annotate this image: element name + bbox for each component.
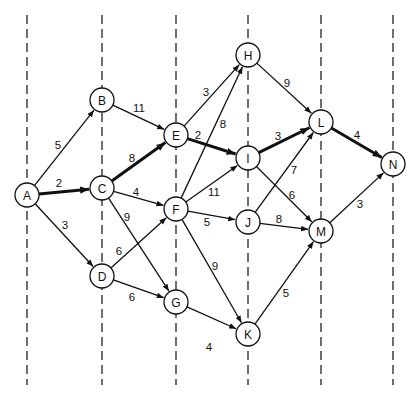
edge-a-c-critical — [39, 189, 89, 194]
edge-weight-label: 6 — [116, 245, 122, 257]
node-label: D — [98, 270, 107, 284]
edge-weight-label: 3 — [203, 86, 209, 98]
edge-c-e-critical — [112, 143, 166, 181]
node-j: J — [236, 210, 260, 234]
edge-weight-label: 5 — [283, 287, 289, 299]
edge-weight-label: 8 — [220, 118, 226, 130]
node-m: M — [309, 219, 333, 243]
edge-i-m — [256, 166, 311, 221]
edge-j-m — [260, 223, 308, 229]
edge-d-f — [111, 218, 166, 268]
edge-weight-label: 3 — [275, 130, 281, 142]
edge-a-d — [35, 204, 93, 267]
node-label: I — [246, 152, 249, 166]
node-label: B — [98, 94, 106, 108]
node-k: K — [236, 322, 260, 346]
stage-lines — [27, 15, 393, 385]
node-label: A — [23, 189, 31, 203]
edge-a-b — [34, 110, 94, 185]
node-label: F — [172, 203, 179, 217]
edge-weight-label: 4 — [133, 186, 140, 198]
edge-weight-label: 4 — [354, 129, 361, 141]
edge-weight-label: 5 — [55, 139, 61, 151]
edge-weight-label: 5 — [204, 216, 210, 228]
node-label: E — [172, 129, 180, 143]
edge-weight-label: 11 — [133, 102, 145, 114]
edge-weight-label: 2 — [56, 177, 62, 189]
node-label: G — [171, 296, 180, 310]
edge-weight-label: 4 — [206, 341, 213, 353]
edge-weight-label: 11 — [208, 186, 220, 198]
edge-weight-label: 2 — [195, 129, 201, 141]
node-g: G — [164, 290, 188, 314]
node-a: A — [15, 183, 39, 207]
node-label: N — [389, 158, 398, 172]
edge-f-j — [188, 211, 235, 220]
node-h: H — [236, 43, 260, 67]
node-c: C — [90, 176, 114, 200]
node-i: I — [236, 146, 260, 170]
edge-weight-label: 3 — [357, 198, 363, 210]
edge-weight-label: 9 — [284, 77, 290, 89]
node-n: N — [381, 152, 405, 176]
edge-g-k — [187, 307, 236, 329]
node-l: L — [309, 110, 333, 134]
node-label: M — [316, 225, 326, 239]
edge-weight-label: 7 — [291, 164, 297, 176]
node-d: D — [90, 264, 114, 288]
node-label: K — [244, 328, 252, 342]
node-label: J — [245, 216, 251, 230]
edge-f-h — [181, 67, 242, 198]
node-label: H — [244, 49, 253, 63]
edge-weight-label: 9 — [124, 211, 130, 223]
edge-weight-label: 8 — [129, 152, 135, 164]
network-diagram: 52311849663281159493678543 ABCDEFGHIJKLM… — [0, 0, 419, 398]
node-label: L — [318, 116, 325, 130]
node-b: B — [90, 88, 114, 112]
edge-weight-label: 6 — [289, 189, 295, 201]
edge-weight-label: 3 — [62, 219, 68, 231]
node-f: F — [164, 197, 188, 221]
node-label: C — [98, 182, 107, 196]
edge-weight-label: 6 — [129, 291, 135, 303]
edge-d-g — [113, 280, 163, 298]
edge-k-m — [255, 242, 314, 325]
edge-weight-label: 9 — [212, 260, 218, 272]
edge-e-h — [184, 65, 239, 126]
edge-j-l — [255, 132, 313, 212]
edge-weight-label: 8 — [276, 213, 282, 225]
node-e: E — [164, 123, 188, 147]
